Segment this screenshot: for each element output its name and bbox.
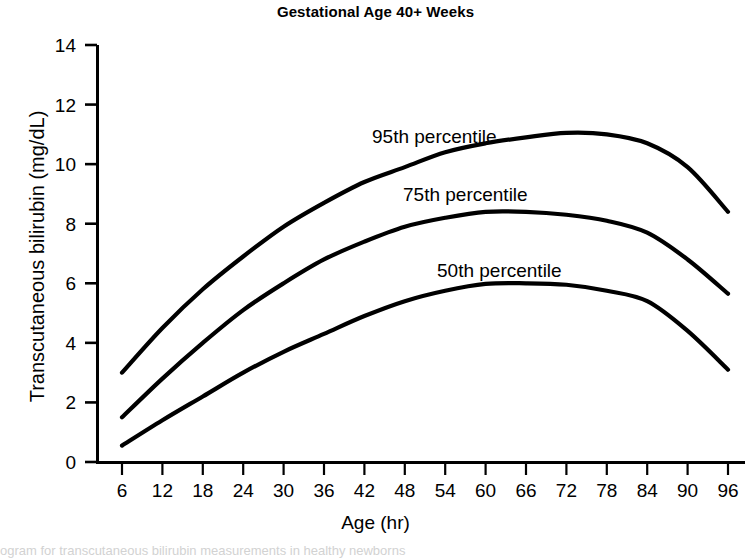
x-tick-label: 24 — [233, 480, 255, 501]
x-tick-label: 6 — [117, 480, 128, 501]
x-tick-label: 84 — [637, 480, 659, 501]
x-tick-label: 36 — [313, 480, 334, 501]
y-tick-label: 0 — [65, 452, 76, 473]
x-tick-label: 42 — [354, 480, 375, 501]
curve-75th-percentile — [122, 211, 728, 417]
x-tick-label: 12 — [152, 480, 173, 501]
y-tick-label: 10 — [55, 154, 76, 175]
x-tick-label: 66 — [515, 480, 536, 501]
x-tick-label: 96 — [717, 480, 738, 501]
y-axis-ticks: 02468101214 — [55, 35, 97, 473]
y-tick-label: 6 — [65, 273, 76, 294]
x-tick-label: 78 — [596, 480, 617, 501]
data-curves — [122, 133, 728, 446]
x-tick-label: 90 — [677, 480, 698, 501]
y-tick-label: 2 — [65, 392, 76, 413]
y-tick-label: 4 — [65, 333, 76, 354]
x-tick-label: 72 — [556, 480, 577, 501]
x-tick-label: 48 — [394, 480, 415, 501]
curve-50th-percentile — [122, 283, 728, 446]
figure-caption: ogram for transcutaneous bilirubin measu… — [0, 543, 751, 558]
x-tick-label: 30 — [273, 480, 294, 501]
x-tick-label: 60 — [475, 480, 496, 501]
x-tick-label: 18 — [192, 480, 213, 501]
y-tick-label: 8 — [65, 214, 76, 235]
y-tick-label: 14 — [55, 35, 77, 56]
y-tick-label: 12 — [55, 95, 76, 116]
x-axis-ticks: 6121824303642485460667278849096 — [117, 462, 739, 501]
x-tick-label: 54 — [435, 480, 457, 501]
